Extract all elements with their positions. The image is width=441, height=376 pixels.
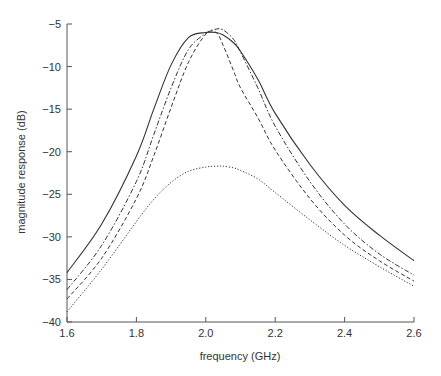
y-axis-label: magnitude response (dB) (15, 110, 27, 234)
y-tick-label: −40 (42, 316, 61, 328)
x-tick-label: 1.8 (129, 327, 144, 339)
y-tick-label: −5 (48, 18, 61, 30)
x-tick-label: 2.6 (406, 327, 421, 339)
y-tick-label: −25 (42, 188, 61, 200)
x-tick-label: 1.6 (59, 327, 74, 339)
series-solid-line (67, 32, 414, 273)
y-tick-label: −15 (42, 103, 61, 115)
curves (67, 29, 414, 312)
x-tick-label: 2.0 (198, 327, 213, 339)
chart-canvas: −5−10−15−20−25−30−35−401.61.82.02.22.42.… (0, 0, 441, 376)
y-tick-label: −30 (42, 231, 61, 243)
axes: −5−10−15−20−25−30−35−401.61.82.02.22.42.… (42, 18, 421, 339)
y-tick-label: −10 (42, 61, 61, 73)
series-dotted-line (67, 166, 414, 312)
y-tick-label: −20 (42, 146, 61, 158)
x-tick-label: 2.2 (268, 327, 283, 339)
series-dashed-line (67, 31, 414, 299)
y-tick-label: −35 (42, 273, 61, 285)
x-axis-label: frequency (GHz) (200, 350, 281, 362)
x-tick-label: 2.4 (337, 327, 352, 339)
series-dash-dot-line (67, 29, 414, 290)
